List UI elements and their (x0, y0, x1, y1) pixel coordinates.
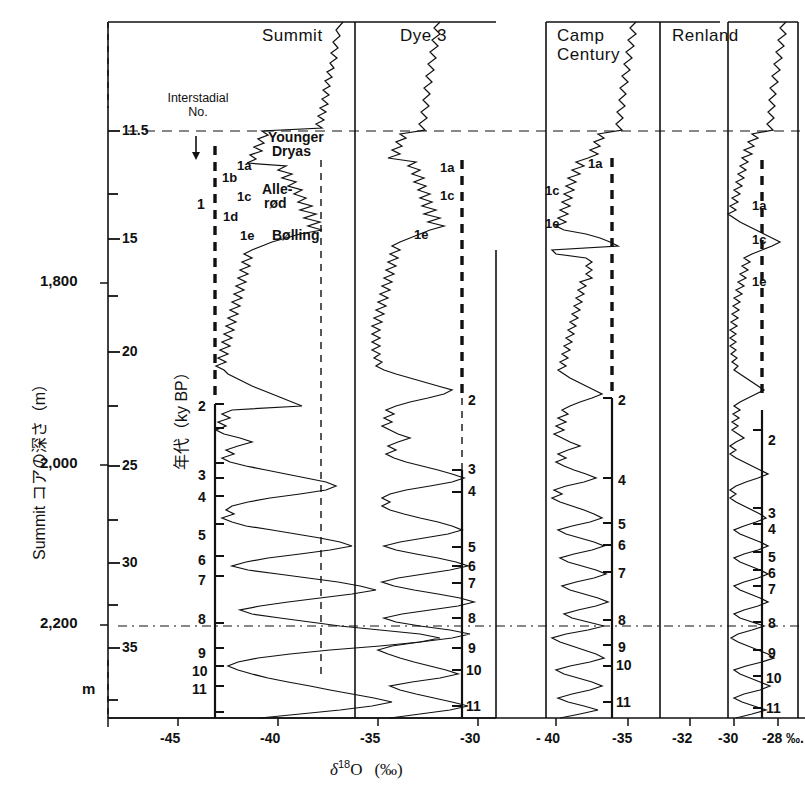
summit-label-2: 2 (198, 398, 206, 414)
renland-label-5: 5 (768, 549, 776, 565)
dye3-label-5: 5 (468, 539, 476, 555)
renland-label-1c: 1c (752, 232, 766, 247)
summit-label-1e: 1e (240, 228, 254, 243)
panel-title-dye3: Dye 3 (400, 26, 447, 46)
camp-label-4: 4 (618, 472, 626, 488)
dye3-label-3: 3 (468, 461, 476, 477)
xtick-summit--35: -35 (360, 730, 380, 746)
xtick-renland--28: -28 (762, 730, 782, 746)
depth-unit-label: m (82, 680, 95, 697)
summit-label-1b: 1b (222, 170, 237, 185)
renland-d18o-curve (728, 22, 786, 718)
isotope-figure: Summit Dye 3 Camp Century Renland Inters… (0, 0, 805, 793)
age-tick-11_5: 11.5 (122, 122, 148, 138)
camp-label-2: 2 (618, 392, 626, 408)
axis-lines (108, 22, 805, 718)
camp-label-7: 7 (618, 565, 626, 581)
x-axis-title: δ18O(‰) (330, 758, 403, 780)
xtick-renland--30: -30 (718, 730, 738, 746)
dye3-label-6: 6 (468, 558, 476, 574)
event-younger-dryas-line2: Dryas (272, 144, 311, 159)
dye3-label-4: 4 (468, 483, 476, 499)
y-axis-label-age-text: 年代（ky BP） (168, 364, 192, 470)
dye3-label-1c: 1c (440, 188, 454, 203)
summit-label-4: 4 (198, 489, 206, 505)
dye3-label-1e: 1e (414, 227, 428, 242)
isotope-mass-number: 18 (338, 758, 350, 770)
summit-label-5: 5 (198, 527, 206, 543)
dye3-interstadial-ticks (452, 470, 462, 706)
summit-label-1d: 1d (223, 209, 238, 224)
y-axis-label-age: 年代（ky BP） (168, 470, 274, 494)
event-allerod-line2: rød (264, 196, 287, 211)
summit-label-10: 10 (192, 663, 208, 679)
xtick-summit--45: -45 (160, 730, 180, 746)
summit-label-1a: 1a (237, 158, 251, 173)
age-tick-20: 20 (122, 343, 138, 359)
interstadial-caption-line2: No. (150, 106, 246, 119)
summit-label-6: 6 (198, 552, 206, 568)
dye3-label-11: 11 (466, 698, 481, 714)
xtick-camp--40: - 40 (536, 730, 560, 746)
chart-canvas (0, 0, 805, 793)
age-tick-15: 15 (122, 230, 138, 246)
renland-label-9: 9 (768, 645, 776, 661)
xtick-summit--40: -40 (260, 730, 280, 746)
interstadial-caption-line1: Interstadial (150, 92, 246, 105)
dye3-label-1a: 1a (440, 160, 454, 175)
depth-tick-1800: 1,800 (40, 272, 78, 289)
summit-label-1c: 1c (237, 189, 251, 204)
xaxis-permil-unit: ‰. (786, 730, 804, 746)
dye3-label-10: 10 (466, 662, 482, 678)
camp-label-9: 9 (618, 639, 626, 655)
xtick-dye3--30: -30 (460, 730, 480, 746)
y-axis-label-depth-text: Summit コアの深さ（m） (26, 376, 50, 560)
renland-label-1e: 1e (752, 274, 766, 289)
renland-label-7: 7 (768, 581, 776, 597)
summit-label-3: 3 (198, 467, 206, 483)
panel-title-renland: Renland (672, 26, 739, 46)
camp-label-1e: 1e (545, 216, 559, 231)
summit-label-8: 8 (198, 611, 206, 627)
camp-label-11: 11 (616, 694, 631, 710)
dye3-label-9: 9 (468, 640, 476, 656)
camp-label-5: 5 (618, 516, 626, 532)
panel-title-camp-century-line1: Camp (557, 26, 604, 46)
summit-label-11: 11 (192, 681, 207, 697)
y-axis-label-depth: Summit コアの深さ（m） (26, 560, 210, 584)
dye3-label-7: 7 (468, 575, 476, 591)
renland-label-1a: 1a (752, 198, 766, 213)
camp-label-8: 8 (618, 612, 626, 628)
age-tick-25: 25 (122, 457, 138, 473)
oxygen-symbol: O (350, 760, 362, 779)
renland-label-4: 4 (768, 521, 776, 537)
dye3-label-2: 2 (468, 392, 476, 408)
renland-label-11: 11 (766, 700, 781, 716)
event-bolling: Bølling (272, 228, 319, 243)
xtick-renland--32: -32 (672, 730, 692, 746)
renland-label-3: 3 (768, 505, 776, 521)
summit-interstadial-brackets (215, 404, 224, 712)
x-axis-ticks (108, 718, 778, 727)
summit-label-1: 1 (197, 196, 205, 212)
camp-label-1a: 1a (588, 156, 602, 171)
interstadial-arrow (192, 136, 200, 160)
camp-label-1c: 1c (545, 183, 559, 198)
dye3-label-8: 8 (468, 610, 476, 626)
panel-title-camp-century-line2: Century (557, 45, 620, 65)
dye3-d18o-curve (372, 22, 474, 718)
renland-label-2: 2 (768, 432, 776, 448)
summit-label-7: 7 (198, 572, 206, 588)
xtick-camp--35: -35 (612, 730, 632, 746)
renland-label-8: 8 (768, 615, 776, 631)
camp-interstadial-ticks (603, 398, 612, 702)
depth-tick-2200: 2,200 (40, 614, 78, 631)
renland-label-6: 6 (768, 565, 776, 581)
delta-symbol: δ (330, 760, 338, 779)
age-tick-35: 35 (122, 639, 138, 655)
camp-label-6: 6 (618, 537, 626, 553)
renland-label-10: 10 (766, 670, 782, 686)
camp-label-10: 10 (616, 657, 632, 673)
age-axis-ticks (108, 131, 120, 700)
panel-title-summit: Summit (262, 26, 323, 46)
